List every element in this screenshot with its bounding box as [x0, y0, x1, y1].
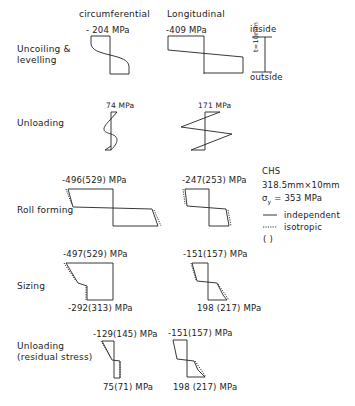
- diagram-sizing-circ: [64, 263, 113, 300]
- diagram-sizing-long: [191, 263, 229, 300]
- diagram-residual-circ: [101, 341, 120, 378]
- diagram-rollforming-circ: [66, 189, 161, 226]
- stress-diagrams: [0, 0, 355, 406]
- diagram-unloading-long: [181, 112, 232, 150]
- diagram-rollforming-long: [183, 189, 231, 226]
- thickness-scale-icon: [252, 37, 272, 72]
- diagram-residual-long: [173, 340, 206, 377]
- diagram-unloading-circ: [104, 112, 117, 150]
- diagram-uncoiling-long: [168, 36, 243, 74]
- diagram-uncoiling-circ: [91, 36, 129, 74]
